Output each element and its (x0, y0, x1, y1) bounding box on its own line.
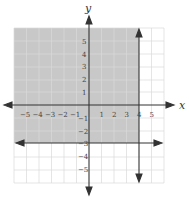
svg-text:−1: −1 (78, 115, 88, 123)
svg-text:−2: −2 (58, 111, 68, 119)
x-axis-label: x (179, 99, 186, 112)
svg-text:5: 5 (82, 38, 86, 46)
y-axis-label: y (84, 2, 92, 15)
svg-text:1: 1 (82, 89, 86, 97)
svg-text:−3: −3 (78, 140, 88, 148)
svg-text:4: 4 (82, 51, 87, 59)
svg-text:3: 3 (125, 111, 129, 119)
coordinate-graph: x y −5 −4 −3 −2 −1 1 2 3 4 5 5 4 3 2 1 −… (0, 0, 189, 208)
svg-text:−5: −5 (78, 166, 88, 174)
svg-text:1: 1 (100, 111, 104, 119)
svg-text:2: 2 (82, 76, 86, 84)
svg-text:−4: −4 (78, 153, 89, 161)
svg-text:−4: −4 (33, 111, 44, 119)
svg-text:3: 3 (82, 63, 86, 71)
svg-text:2: 2 (112, 111, 116, 119)
svg-text:−5: −5 (20, 111, 30, 119)
svg-text:−2: −2 (78, 128, 88, 136)
svg-text:4: 4 (137, 111, 142, 119)
svg-text:−3: −3 (45, 111, 55, 119)
svg-text:5: 5 (150, 111, 154, 119)
